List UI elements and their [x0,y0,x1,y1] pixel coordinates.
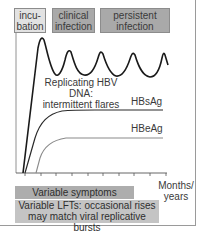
hbeag-curve [36,138,163,173]
x-axis-label-line-1: Months/ [155,180,197,191]
lfts-bar: Variable LFTs: occasional rises may matc… [15,200,159,223]
hbeag-label: HBeAg [131,123,163,134]
symptoms-bar: Variable symptoms [15,186,134,199]
lfts-bar-line-2: may match viral replicative bursts [15,211,159,231]
hbsag-curve [25,110,163,173]
hbv-dna-label-line-1: Replicating HBV DNA: [34,77,128,99]
lfts-bar-line-1: Variable LFTs: occasional rises [15,200,159,211]
x-axis-label-line-2: years [155,191,197,202]
x-axis-label: Months/ years [155,180,197,202]
hbsag-label: HBsAg [131,96,162,107]
hbv-dna-label-line-2: intermittent flares [34,99,128,110]
hbv-dna-label: Replicating HBV DNA: intermittent flares [34,77,128,110]
